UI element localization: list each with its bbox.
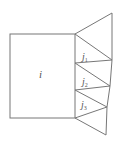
square-i [10,34,75,118]
fan-line-6 [75,107,107,118]
fan-line-1 [75,34,112,60]
diagram-canvas: i j1 j2 j3 [0,0,124,141]
figure-diagram: i j1 j2 j3 [0,0,124,141]
fan-line-5 [75,90,107,107]
fan-line-2 [75,60,112,63]
triangle-label-j3: j3 [79,99,87,111]
triangle-label-j1: j1 [80,51,88,63]
triangle-label-j2: j2 [80,76,88,88]
square-label: i [39,68,42,80]
fan-line-3 [75,63,110,86]
fan-line-4 [75,86,110,90]
outer-right-edge [75,13,112,135]
